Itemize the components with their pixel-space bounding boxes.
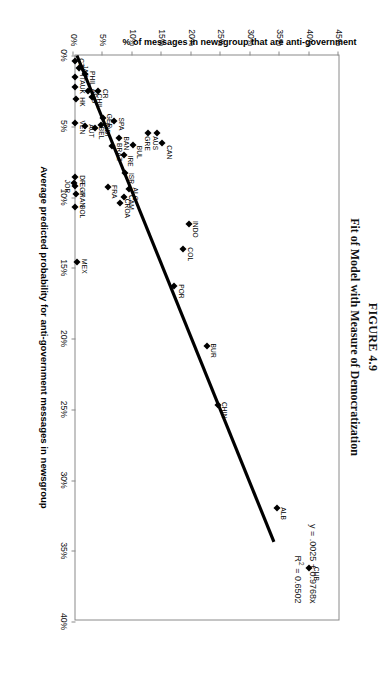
x-axis-tick [71, 480, 75, 481]
data-point-label: CROA [122, 198, 129, 217]
data-point-label: UK [77, 84, 84, 93]
x-axis-tick-label: 5% [58, 120, 68, 132]
x-axis-tick [71, 267, 75, 268]
x-axis-tick-label: 10% [58, 188, 68, 205]
data-point-label: ARG [90, 88, 97, 103]
y-axis-tick-label: 0% [68, 34, 78, 46]
data-point-label: CZE [77, 58, 84, 72]
r-squared-symbol: R [292, 555, 302, 562]
rotated-figure-container: FIGURE 4.9 Fit of Model with Measure of … [0, 0, 385, 673]
x-axis-tick-label: 15% [58, 259, 68, 276]
regression-equation: y = .0025 + 0.9768x [305, 523, 318, 603]
y-axis-tick [308, 51, 309, 55]
data-point-label: VEN [77, 120, 84, 134]
data-point-label: BUR [209, 343, 216, 357]
data-point-label: GRE [142, 136, 149, 151]
data-point-label: COL [185, 247, 192, 261]
data-point-label: ITA [77, 74, 84, 84]
r-squared: R2 = 0.6502 [290, 523, 305, 603]
y-axis-tick [131, 51, 132, 55]
x-axis-tick [71, 409, 75, 410]
data-point-label: HK [78, 97, 85, 106]
x-axis-tick [71, 621, 75, 622]
x-axis-tick-label: 20% [58, 329, 68, 346]
y-axis-tick-label: 5% [97, 34, 107, 46]
data-point-label: ALB [279, 507, 286, 520]
data-point-label: BOL [77, 204, 84, 218]
y-axis-tick [190, 51, 191, 55]
y-axis-tick [219, 51, 220, 55]
data-point-label: SPA [116, 117, 123, 130]
plot-area: CUBALBCHINBURPORCOLINDOMEXCANAUSGREBULIR… [74, 54, 339, 620]
x-axis-title: Average predicted probability for anti-g… [38, 54, 49, 620]
data-point-label: INDO [191, 220, 198, 237]
y-axis-tick [101, 51, 102, 55]
x-axis-tick-label: 0% [58, 49, 68, 61]
data-point-label: CHIN [220, 402, 227, 419]
y-axis-tick [160, 51, 161, 55]
x-axis-tick [71, 550, 75, 551]
figure-page: FIGURE 4.9 Fit of Model with Measure of … [0, 0, 385, 673]
figure-title-block: FIGURE 4.9 Fit of Model with Measure of … [346, 0, 379, 673]
x-axis-tick [71, 197, 75, 198]
figure-caption: Fit of Model with Measure of Democratiza… [346, 0, 361, 673]
x-axis-tick [71, 126, 75, 127]
figure-number: FIGURE 4.9 [364, 0, 379, 673]
x-axis-tick-label: 25% [58, 400, 68, 417]
data-point-label: MEX [79, 259, 86, 274]
data-point-label: POR [176, 284, 183, 299]
data-point-label: BRAZ [114, 143, 121, 161]
data-point-label: AUS [150, 136, 157, 150]
regression-annotation: y = .0025 + 0.9768x R2 = 0.6502 [290, 523, 318, 603]
x-axis-tick-label: 35% [58, 542, 68, 559]
data-point-label: BEL [97, 126, 104, 139]
x-axis-tick [71, 338, 75, 339]
data-point-label: FRA [110, 185, 117, 199]
x-axis-tick-label: 30% [58, 471, 68, 488]
data-point-label: CAN [164, 145, 171, 159]
y-axis-title: % of messages in newsgroup that are anti… [119, 36, 359, 48]
x-axis-tick-label: 40% [58, 612, 68, 629]
y-axis-tick [249, 51, 250, 55]
y-axis-tick [72, 51, 73, 55]
data-point-label: AUT [87, 124, 94, 138]
r-squared-number: = 0.6502 [292, 565, 302, 603]
y-axis-tick [337, 51, 338, 55]
data-point-label: IRE [125, 155, 132, 166]
data-point-label: ISR [127, 172, 134, 183]
data-point-label: BUL [135, 145, 142, 158]
y-axis-tick [278, 51, 279, 55]
